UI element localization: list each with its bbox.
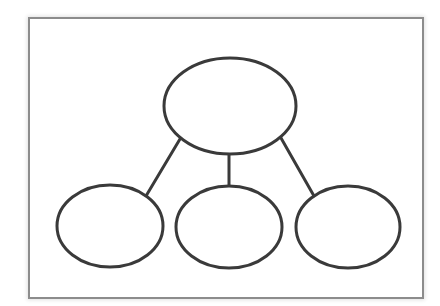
node-bottom-right: [296, 186, 400, 268]
node-top: [164, 58, 296, 154]
node-bottom-left: [57, 185, 163, 267]
hierarchy-diagram: [0, 0, 440, 306]
connector-top-to-bottom-right: [281, 138, 314, 196]
connector-top-to-bottom-left: [146, 139, 180, 196]
node-bottom-middle: [176, 186, 282, 268]
